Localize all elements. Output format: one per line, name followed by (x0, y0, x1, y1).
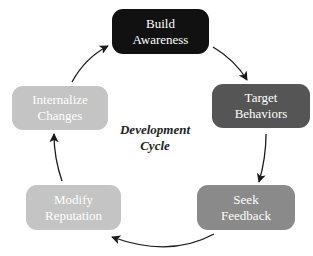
arrow-reputation-to-internalize (54, 134, 62, 181)
arrow-internalize-to-awareness (72, 46, 108, 82)
node-internalize-changes: Internalize Changes (12, 86, 108, 130)
node-label-line1: Target (235, 90, 288, 106)
node-label-line1: Internalize (32, 92, 88, 108)
center-label-line2: Cycle (105, 138, 205, 154)
node-label-line2: Behaviors (235, 106, 288, 122)
node-label-line1: Modify (45, 192, 102, 208)
center-label: Development Cycle (105, 122, 205, 154)
arrow-feedback-to-reputation (112, 234, 214, 247)
node-label-line2: Changes (32, 108, 88, 124)
center-label-line1: Development (105, 122, 205, 138)
node-seek-feedback: Seek Feedback (197, 185, 295, 230)
arrow-behaviors-to-feedback (259, 134, 266, 182)
node-label-line2: Feedback (221, 208, 271, 224)
node-label-line2: Reputation (45, 208, 102, 224)
node-label-line2: Awareness (133, 32, 189, 48)
node-label-line1: Build (133, 16, 189, 32)
node-label-line1: Seek (221, 192, 271, 208)
arrow-awareness-to-behaviors (213, 47, 247, 80)
node-build-awareness: Build Awareness (112, 9, 209, 54)
node-target-behaviors: Target Behaviors (212, 84, 310, 128)
node-modify-reputation: Modify Reputation (26, 185, 121, 230)
